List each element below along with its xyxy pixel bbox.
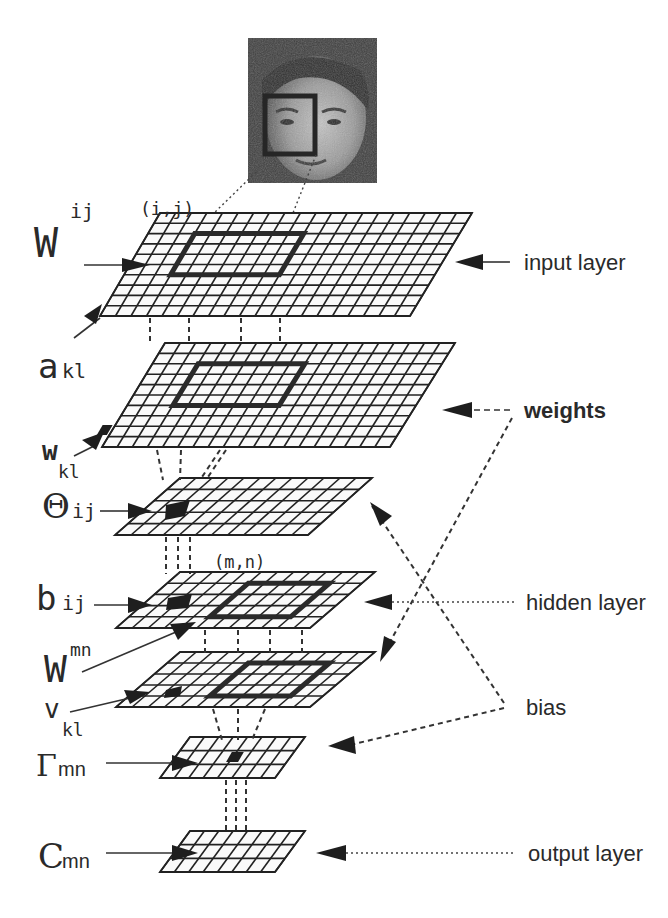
svg-text:W: W — [34, 220, 59, 266]
layer-v — [116, 652, 375, 707]
label-W-mn: W mn — [44, 639, 92, 691]
svg-text:ij: ij — [62, 591, 86, 615]
layer-a — [102, 343, 455, 447]
label-v-kl: v kl — [44, 694, 84, 740]
svg-text:input layer: input layer — [524, 250, 626, 275]
svg-text:Θ: Θ — [42, 486, 70, 526]
callout-bias: bias — [328, 502, 566, 754]
svg-text:mn: mn — [62, 850, 90, 872]
svg-text:ij: ij — [72, 499, 96, 523]
arrowhead-icon — [316, 845, 346, 861]
label-w-kl: w kl — [42, 436, 80, 482]
layer-b — [116, 572, 375, 628]
label-W-ij: W ij — [34, 199, 94, 266]
label-theta-ij: Θ ij — [42, 486, 96, 526]
layer-input — [100, 213, 472, 316]
arrowhead-icon — [380, 636, 396, 662]
svg-text:output layer: output layer — [528, 841, 643, 866]
label-mn-coordinate: (m,n) — [214, 552, 265, 572]
layer-stack — [100, 213, 472, 872]
arrowhead-icon — [455, 254, 483, 270]
svg-text:v: v — [44, 694, 60, 724]
svg-text:bias: bias — [526, 695, 566, 720]
svg-text:kl: kl — [62, 719, 84, 740]
arrowhead-icon — [370, 502, 392, 526]
label-a-kl: a kl — [38, 346, 86, 386]
arrowhead-icon — [364, 594, 392, 610]
callout-weights: weights — [380, 398, 606, 662]
arrowhead-icon — [442, 402, 472, 418]
svg-text:b: b — [36, 578, 56, 618]
arrowhead-icon — [328, 736, 356, 754]
svg-text:W: W — [44, 647, 67, 691]
svg-text:a: a — [38, 346, 58, 386]
label-c-mn: C mn — [38, 836, 90, 876]
arrowhead-icon — [170, 622, 196, 640]
svg-text:hidden layer: hidden layer — [526, 590, 646, 615]
svg-text:kl: kl — [62, 359, 86, 383]
arrowhead-icon — [84, 304, 102, 324]
label-ij-coordinate: (i,j) — [140, 198, 194, 219]
label-b-ij: b ij — [36, 578, 86, 618]
svg-text:Γ: Γ — [36, 748, 57, 783]
label-gamma-mn: Γ mn — [36, 748, 86, 783]
svg-text:ij: ij — [70, 199, 94, 223]
svg-text:weights: weights — [523, 398, 606, 423]
svg-text:C: C — [38, 836, 64, 876]
callout-input-layer: input layer — [455, 250, 626, 275]
layer-theta — [115, 478, 372, 535]
network-diagram: W ij (i,j) a kl w kl Θ ij (m,n) b ij W m… — [0, 0, 668, 918]
svg-text:w: w — [42, 436, 58, 466]
svg-text:kl: kl — [58, 461, 80, 482]
face-photo — [248, 38, 377, 183]
svg-text:mn: mn — [58, 758, 86, 780]
svg-text:mn: mn — [70, 639, 92, 660]
callout-output-layer: output layer — [316, 841, 643, 866]
